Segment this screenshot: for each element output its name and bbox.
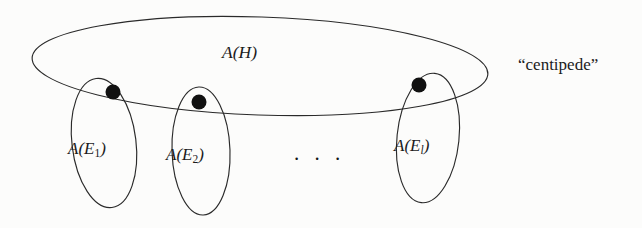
label-hyperedge-text: A(H): [222, 42, 257, 62]
big-ellipse-AH: [30, 9, 489, 123]
diagram-canvas: [0, 0, 642, 228]
label-edge-AE1: A(E1): [68, 140, 106, 160]
vertex-dot-l: [412, 78, 427, 93]
label-edge-AE1-suffix: ): [100, 139, 106, 158]
label-edge-AE2-suffix: ): [198, 145, 204, 164]
label-edge-AEl: A(El): [394, 137, 429, 157]
vertex-dot-2: [192, 95, 207, 110]
ellipsis-dots: . . .: [294, 143, 345, 164]
centipede-figure: A(H) A(E1) A(E2) A(El) . . . “centipede”: [0, 0, 642, 228]
label-hyperedge-AH: A(H): [222, 44, 257, 62]
caption-centipede: “centipede”: [518, 56, 598, 73]
label-edge-AE2: A(E2): [166, 146, 204, 166]
label-edge-AEl-suffix: ): [424, 136, 430, 155]
label-edge-AE2-prefix: A(E: [166, 145, 192, 164]
vertex-dot-1: [106, 85, 121, 100]
label-edge-AE1-prefix: A(E: [68, 139, 94, 158]
label-edge-AEl-prefix: A(E: [394, 136, 420, 155]
